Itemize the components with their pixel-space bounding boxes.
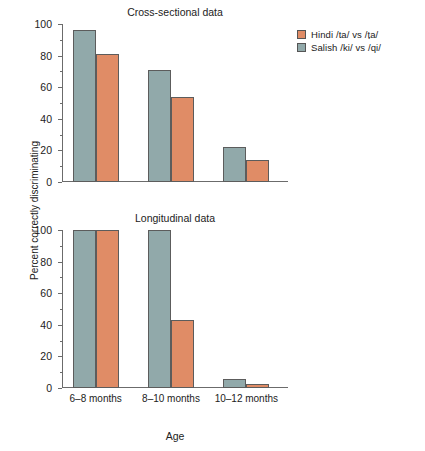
y-tick-minor: [60, 103, 63, 104]
plot-area-cross-sectional: 020406080100: [62, 24, 288, 182]
y-tick-major: 100: [58, 230, 62, 231]
x-tick-label: 10–12 months: [215, 393, 278, 404]
y-tick-minor: [60, 40, 63, 41]
legend-item-salish: Salish /ki/ vs /qi/: [297, 42, 381, 53]
x-tick-label: 6–8 months: [70, 393, 122, 404]
y-axis-line: [62, 230, 63, 388]
y-tick-label: 40: [40, 319, 52, 331]
panel-cross-sectional: Cross-sectional data 020406080100: [0, 6, 300, 206]
panel-longitudinal: Longitudinal data 0204060801006–8 months…: [0, 212, 300, 412]
y-tick-major: 0: [58, 182, 62, 183]
legend: Hindi /ta/ vs /ṭa/ Salish /ki/ vs /qi/: [297, 29, 381, 53]
y-tick-minor: [60, 246, 63, 247]
bar: [148, 230, 171, 388]
y-tick-label: 20: [40, 350, 52, 362]
y-tick-minor: [60, 372, 63, 373]
legend-label-hindi: Hindi /ta/ vs /ṭa/: [311, 29, 378, 40]
y-tick-major: 20: [58, 356, 62, 357]
bar: [246, 384, 269, 388]
bar: [73, 30, 96, 182]
bar: [171, 97, 194, 182]
bar: [223, 379, 246, 388]
y-tick-major: 100: [58, 24, 62, 25]
y-tick-minor: [60, 135, 63, 136]
y-tick-label: 80: [40, 256, 52, 268]
bar: [96, 54, 119, 182]
y-tick-major: 0: [58, 388, 62, 389]
y-tick-major: 80: [58, 56, 62, 57]
y-tick-minor: [60, 341, 63, 342]
y-tick-minor: [60, 71, 63, 72]
y-tick-label: 60: [40, 81, 52, 93]
panel-title-longitudinal: Longitudinal data: [60, 212, 290, 224]
y-tick-major: 80: [58, 262, 62, 263]
bar: [246, 160, 269, 182]
plot-area-longitudinal: 0204060801006–8 months8–10 months10–12 m…: [62, 230, 288, 388]
bar: [223, 147, 246, 182]
y-tick-label: 40: [40, 113, 52, 125]
y-tick-minor: [60, 309, 63, 310]
y-tick-major: 40: [58, 325, 62, 326]
bar: [73, 230, 96, 388]
panel-title-cross-sectional: Cross-sectional data: [60, 6, 290, 18]
y-tick-major: 40: [58, 119, 62, 120]
y-tick-major: 20: [58, 150, 62, 151]
y-tick-minor: [60, 277, 63, 278]
y-tick-label: 20: [40, 144, 52, 156]
y-tick-major: 60: [58, 293, 62, 294]
bar: [148, 70, 171, 182]
bar: [171, 320, 194, 388]
legend-label-salish: Salish /ki/ vs /qi/: [311, 42, 381, 53]
x-tick-label: 8–10 months: [142, 393, 200, 404]
y-tick-label: 60: [40, 287, 52, 299]
y-tick-major: 60: [58, 87, 62, 88]
y-tick-label: 80: [40, 50, 52, 62]
y-tick-label: 100: [34, 18, 52, 30]
bar: [96, 230, 119, 388]
y-tick-label: 0: [46, 176, 52, 188]
y-tick-label: 0: [46, 382, 52, 394]
legend-item-hindi: Hindi /ta/ vs /ṭa/: [297, 29, 381, 40]
figure: Hindi /ta/ vs /ṭa/ Salish /ki/ vs /qi/ P…: [0, 0, 425, 451]
y-tick-minor: [60, 166, 63, 167]
y-tick-label: 100: [34, 224, 52, 236]
x-axis-label: Age: [62, 430, 288, 442]
y-axis-line: [62, 24, 63, 182]
